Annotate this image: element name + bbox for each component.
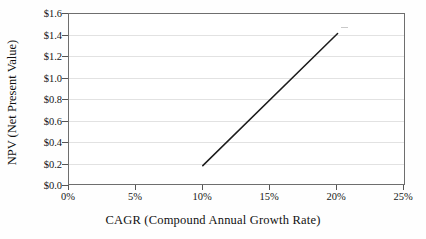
y-axis-tick	[62, 142, 68, 143]
gridline	[69, 121, 404, 122]
gridline	[69, 35, 404, 36]
y-axis-tick-label: $1.2	[22, 51, 62, 62]
x-axis-tick-label: 15%	[249, 191, 289, 202]
y-axis-tick-label: $1.4	[22, 30, 62, 41]
x-axis-tick-label: 20%	[316, 191, 356, 202]
y-axis-tick	[62, 121, 68, 122]
x-axis-tick-label: 0%	[48, 191, 88, 202]
x-axis-tick	[336, 185, 337, 190]
scan-artifact-mark	[341, 27, 348, 28]
x-axis-tick	[68, 185, 69, 190]
x-axis-title: CAGR (Compound Annual Growth Rate)	[0, 213, 426, 228]
y-axis-tick-label: $0.2	[22, 159, 62, 170]
gridline	[69, 142, 404, 143]
x-axis-tick	[135, 185, 136, 190]
x-axis-tick-label: 25%	[383, 191, 423, 202]
y-axis-tick-label: $0.0	[22, 180, 62, 191]
gridline	[69, 99, 404, 100]
x-axis-tick	[403, 185, 404, 190]
x-axis-tick-label: 10%	[182, 191, 222, 202]
x-axis-tick-label: 5%	[115, 191, 155, 202]
y-axis-tick-label: $0.6	[22, 116, 62, 127]
gridline	[69, 78, 404, 79]
gridline	[69, 56, 404, 57]
x-axis-tick	[202, 185, 203, 190]
plot-area	[68, 13, 405, 185]
y-axis-tick	[62, 56, 68, 57]
y-axis-tick	[62, 13, 68, 14]
y-axis-tick	[62, 35, 68, 36]
y-axis-tick-label: $1.6	[22, 8, 62, 19]
y-axis-tick-label: $0.8	[22, 94, 62, 105]
y-axis-tick	[62, 78, 68, 79]
y-axis-tick	[62, 164, 68, 165]
y-axis-tick-labels: $1.6 $1.4 $1.2 $1.0 $0.8 $0.6 $0.4 $0.2 …	[18, 0, 62, 239]
y-axis-title: NPV (Net Present Value)	[5, 28, 20, 178]
gridline	[69, 164, 404, 165]
y-axis-tick-label: $0.4	[22, 137, 62, 148]
x-axis-tick	[269, 185, 270, 190]
y-axis-tick	[62, 99, 68, 100]
y-axis-tick-label: $1.0	[22, 73, 62, 84]
npv-cagr-line-chart: $1.6 $1.4 $1.2 $1.0 $0.8 $0.6 $0.4 $0.2 …	[0, 0, 426, 239]
